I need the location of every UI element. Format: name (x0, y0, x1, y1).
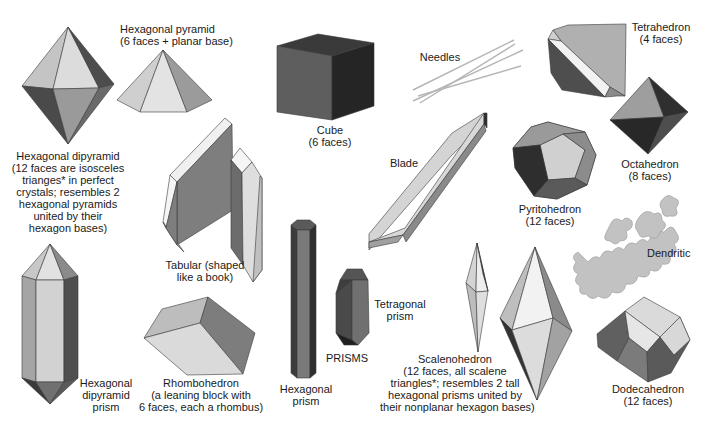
label-tabular: Tabular (shaped like a book) (165, 259, 245, 283)
scalenohedron-thin-icon (466, 243, 488, 352)
blade-icon (369, 113, 487, 250)
tabular-icon (163, 118, 262, 282)
label-dodecahedron: Dodecahedron (12 faces) (606, 383, 690, 407)
label-scalenohedron: Scalenohedron (12 faces, all scalene tri… (380, 353, 530, 413)
hexagonal-prism-icon (291, 220, 316, 378)
label-tetragonal-prism: Tetragonal prism (372, 298, 428, 322)
label-hexagonal-dipyramid: Hexagonal dipyramid (12 faces are isosce… (0, 150, 136, 234)
label-rhombohedron: Rhombohedron (a leaning block with 6 fac… (138, 377, 264, 413)
needles-icon (413, 40, 523, 103)
label-dendritic: Dendritic (647, 247, 707, 259)
tetrahedron-icon (548, 24, 626, 97)
rhombohedron-icon (144, 297, 255, 375)
hexagonal-dipyramid-prism-icon (22, 244, 78, 404)
tetragonal-prism-icon (336, 269, 369, 345)
label-prisms-group: PRISMS (322, 352, 372, 364)
cube-icon (277, 34, 374, 120)
label-blade: Blade (384, 157, 424, 169)
hexagonal-dipyramid-icon (22, 27, 114, 144)
dodecahedron-icon (594, 297, 690, 382)
label-hexagonal-prism: Hexagonal prism (278, 383, 334, 407)
label-hexagonal-pyramid: Hexagonal pyramid (6 faces + planar base… (120, 23, 215, 47)
label-pyritohedron: Pyritohedron (12 faces) (510, 203, 590, 227)
label-tetrahedron: Tetrahedron (4 faces) (626, 21, 696, 45)
crystal-forms-diagram: Hexagonal pyramid (6 faces + planar base… (0, 0, 711, 421)
hexagonal-pyramid-icon (117, 50, 212, 112)
label-cube: Cube (6 faces) (300, 124, 360, 148)
label-octahedron: Octahedron (8 faces) (615, 158, 685, 182)
pyritohedron-icon (513, 122, 596, 199)
label-needles: Needles (415, 51, 465, 63)
label-hexagonal-dipyramid-prism: Hexagonal dipyramid prism (78, 377, 134, 413)
